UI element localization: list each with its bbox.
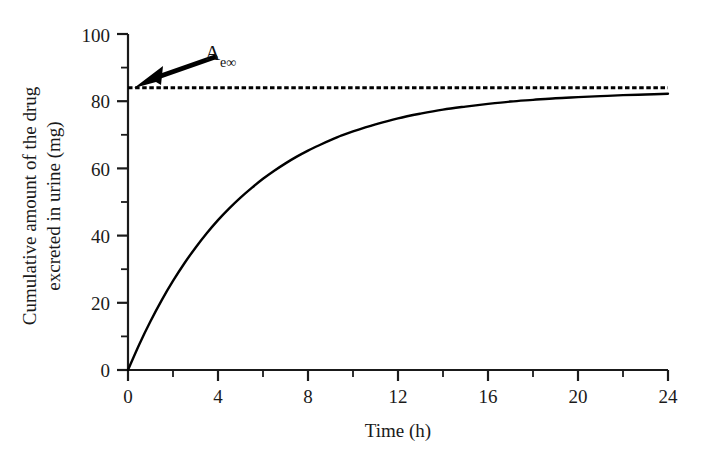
y-axis-title-line1: Cumulative amount of the drug: [19, 86, 40, 325]
x-tick-label: 24: [659, 386, 679, 407]
y-tick-label: 100: [82, 25, 111, 46]
x-tick-label: 0: [123, 386, 133, 407]
y-tick-label: 40: [91, 226, 110, 247]
x-tick-label: 12: [389, 386, 408, 407]
y-axis-title-line2: excreted in urine (mg): [43, 121, 65, 290]
ae-infinity-base: A: [205, 41, 221, 65]
y-tick-label: 60: [91, 159, 110, 180]
x-tick-label: 4: [213, 386, 223, 407]
y-tick-label: 0: [101, 360, 111, 381]
chart-canvas: 0 20 40 60 80 100 Cumulative amount of t…: [0, 0, 707, 459]
ae-infinity-subscript: e∞: [220, 55, 236, 70]
y-tick-label: 80: [91, 91, 110, 112]
x-axis-title: Time (h): [365, 420, 431, 442]
chart-figure: 0 20 40 60 80 100 Cumulative amount of t…: [0, 0, 707, 459]
x-tick-label: 8: [303, 386, 313, 407]
x-tick-label: 16: [479, 386, 498, 407]
y-tick-label: 20: [91, 293, 110, 314]
x-tick-label: 20: [569, 386, 588, 407]
